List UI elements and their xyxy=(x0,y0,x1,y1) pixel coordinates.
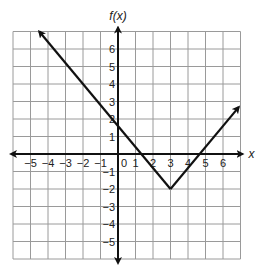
x-tick-label: −2 xyxy=(77,157,90,169)
y-tick-label: −3 xyxy=(102,201,115,213)
x-tick-label: 6 xyxy=(220,157,226,169)
x-tick-label: 1 xyxy=(132,157,138,169)
coordinate-plane: −5−4−3−2−10123456654321−1−2−3−4−5 f(x) x xyxy=(0,0,261,277)
y-tick-label: 5 xyxy=(109,61,115,73)
x-tick-label: −3 xyxy=(59,157,72,169)
y-axis-label: f(x) xyxy=(109,9,126,23)
x-tick-label: −5 xyxy=(24,157,37,169)
y-tick-label: −5 xyxy=(102,236,115,248)
x-tick-label: −4 xyxy=(42,157,55,169)
y-tick-label: 3 xyxy=(109,96,115,108)
x-tick-label: 0 xyxy=(121,157,127,169)
x-tick-label: 3 xyxy=(167,157,173,169)
x-axis-label: x xyxy=(248,147,256,161)
y-tick-label: 6 xyxy=(109,43,115,55)
tick-labels: −5−4−3−2−10123456654321−1−2−3−4−5 xyxy=(24,43,226,248)
x-tick-label: 5 xyxy=(202,157,208,169)
y-tick-label: 1 xyxy=(109,131,115,143)
y-tick-label: −4 xyxy=(102,218,115,230)
y-tick-label: −1 xyxy=(102,166,115,178)
y-tick-label: −2 xyxy=(102,183,115,195)
y-tick-label: 4 xyxy=(109,78,115,90)
